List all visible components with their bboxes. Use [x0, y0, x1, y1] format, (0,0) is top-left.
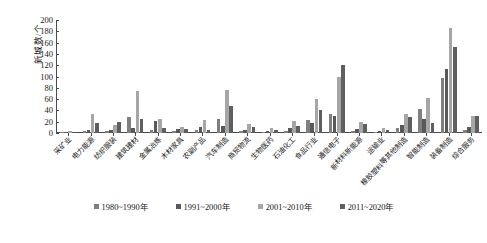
- bar: [225, 90, 229, 133]
- legend-item[interactable]: 2001~2010年: [258, 200, 312, 212]
- y-tick-label: 100: [27, 72, 53, 81]
- legend-swatch-icon: [258, 204, 263, 209]
- bar: [341, 65, 345, 133]
- x-label-cell: 汽车制造: [214, 136, 236, 196]
- y-tick-label: 20: [27, 117, 53, 126]
- bar-group: [169, 20, 191, 133]
- legend-label: 1980~1990年: [102, 200, 148, 212]
- y-tick-label: 160: [27, 38, 53, 47]
- bar-group: [348, 20, 370, 133]
- bar-group: [370, 20, 392, 133]
- bar: [453, 47, 457, 133]
- y-tick-label: 40: [27, 106, 53, 115]
- bar: [333, 116, 337, 133]
- bar: [310, 123, 314, 133]
- bar-group: [147, 20, 169, 133]
- bar: [319, 110, 323, 133]
- bar: [400, 125, 404, 133]
- bar: [418, 109, 422, 133]
- x-label-cell: 建筑建材: [124, 136, 146, 196]
- bar-group: [303, 20, 325, 133]
- legend-swatch-icon: [176, 204, 181, 209]
- bar-group: [258, 20, 280, 133]
- bar-group: [460, 20, 482, 133]
- bar: [404, 114, 408, 133]
- x-label-cell: 农副产品: [191, 136, 213, 196]
- bar: [113, 125, 117, 133]
- y-tick-label: 180: [27, 27, 53, 36]
- bar: [363, 124, 367, 133]
- bar: [229, 106, 233, 133]
- bar: [127, 117, 131, 133]
- legend-label: 1991~2000年: [184, 200, 230, 212]
- legend-label: 2001~2010年: [266, 200, 312, 212]
- bar: [441, 78, 445, 133]
- y-tick-label: 80: [27, 84, 53, 93]
- bar-group: [281, 20, 303, 133]
- x-tick-label: 运输业: [367, 136, 387, 156]
- x-label-cell: 智能制造: [415, 136, 437, 196]
- bar: [449, 28, 453, 133]
- legend-swatch-icon: [340, 204, 345, 209]
- bar: [95, 123, 99, 133]
- bar: [136, 91, 140, 133]
- bar: [315, 99, 319, 133]
- bar: [329, 114, 333, 133]
- bar: [247, 124, 251, 133]
- y-tick-label: 120: [27, 61, 53, 70]
- x-axis-tick-labels: 采矿业电力能源纺织服装建筑建材金属冶炼木材家具农副产品汽车制造商贸物流生物医药石…: [57, 136, 482, 196]
- x-label-cell: 金属冶炼: [147, 136, 169, 196]
- x-label-cell: 食品行业: [303, 136, 325, 196]
- bar-group: [393, 20, 415, 133]
- bar: [203, 120, 207, 133]
- bar: [91, 114, 95, 133]
- bar: [337, 77, 341, 133]
- bar: [475, 116, 479, 134]
- bar: [221, 126, 225, 133]
- x-label-cell: 装备制造: [437, 136, 459, 196]
- bar: [422, 119, 426, 133]
- bar: [217, 119, 221, 133]
- chart-legend: 1980~1990年1991~2000年2001~2010年2011~2020年: [0, 200, 487, 212]
- bar: [431, 123, 435, 133]
- x-label-cell: 石油化工: [281, 136, 303, 196]
- legend-item[interactable]: 1980~1990年: [94, 200, 148, 212]
- legend-item[interactable]: 1991~2000年: [176, 200, 230, 212]
- x-label-cell: 橡胶塑料等其他制造: [393, 136, 415, 196]
- y-axis-tick-labels: 020406080100120140160180200: [24, 20, 53, 133]
- x-label-cell: 商贸物流: [236, 136, 258, 196]
- bar-group: [214, 20, 236, 133]
- bar-groups: [57, 20, 482, 133]
- legend-swatch-icon: [94, 204, 99, 209]
- y-tick-label: 140: [27, 50, 53, 59]
- bar: [359, 122, 363, 133]
- bar-group: [236, 20, 258, 133]
- x-label-cell: 生物医药: [258, 136, 280, 196]
- x-label-cell: 木材家具: [169, 136, 191, 196]
- bar-group: [437, 20, 459, 133]
- y-tick-label: 200: [27, 16, 53, 25]
- x-label-cell: 电力能源: [79, 136, 101, 196]
- bar: [154, 121, 158, 133]
- bar-group: [124, 20, 146, 133]
- legend-label: 2011~2020年: [348, 200, 394, 212]
- bar: [158, 119, 162, 133]
- bar-chart: 新城数/个 020406080100120140160180200 采矿业电力能…: [0, 0, 487, 243]
- bar: [426, 98, 430, 133]
- bar: [292, 121, 296, 133]
- bar: [140, 119, 144, 133]
- bar: [445, 69, 449, 133]
- bar: [408, 117, 412, 133]
- bar: [471, 116, 475, 133]
- bar-group: [57, 20, 79, 133]
- bar-group: [102, 20, 124, 133]
- legend-item[interactable]: 2011~2020年: [340, 200, 394, 212]
- y-tick-label: 60: [27, 95, 53, 104]
- bar-group: [191, 20, 213, 133]
- x-label-cell: 新材料新能源: [348, 136, 370, 196]
- bar-group: [415, 20, 437, 133]
- bar: [117, 122, 121, 133]
- bar-group: [326, 20, 348, 133]
- x-label-cell: 纺织服装: [102, 136, 124, 196]
- bar-group: [79, 20, 101, 133]
